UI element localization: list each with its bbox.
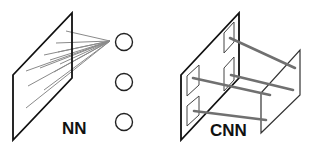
nn-connections <box>26 31 110 108</box>
nn-label: NN <box>62 119 87 139</box>
nn-neuron-3 <box>116 114 133 131</box>
cnn-receptive-field-3 <box>187 65 199 96</box>
nn-neuron-2 <box>116 74 133 91</box>
cnn-connections <box>193 38 295 120</box>
cnn-label: CNN <box>210 121 247 141</box>
diagram-canvas <box>0 0 312 151</box>
nn-neuron-1 <box>116 34 133 51</box>
